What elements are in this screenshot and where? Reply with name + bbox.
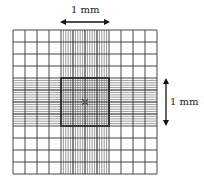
- right-dimension-label: 1 mm: [170, 96, 199, 107]
- hemocytometer-diagram: [0, 0, 204, 186]
- counting-grid: [13, 30, 157, 174]
- top-dimension-arrow: [60, 19, 110, 25]
- top-dimension-label: 1 mm: [71, 4, 100, 15]
- right-dimension-arrow: [163, 78, 169, 126]
